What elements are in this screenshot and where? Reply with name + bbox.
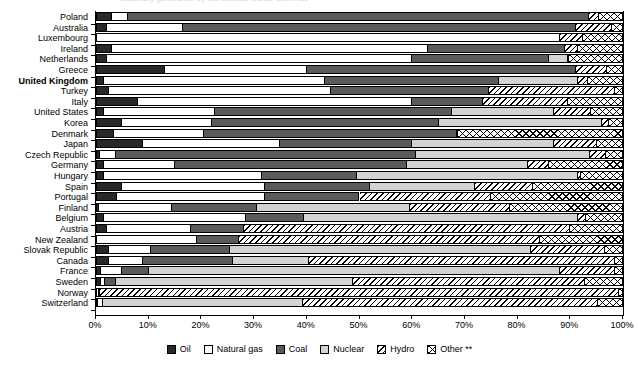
legend-item-nuclear[interactable]: Nuclear (320, 344, 364, 354)
bar-segment-other (619, 288, 623, 297)
bar-segment-coal (246, 213, 304, 222)
bar-segment-coal (331, 86, 489, 95)
legend-item-coal[interactable]: Coal (276, 344, 308, 354)
bar-segment-gas (109, 86, 330, 95)
bar-segment-coal (197, 235, 239, 244)
bar-segment-gas (104, 107, 215, 116)
y-axis-label-united-states: United States (34, 107, 88, 117)
bar-segment-hydro (589, 12, 600, 21)
bar-segment-coal (265, 192, 360, 201)
bar-segment-coal (191, 224, 244, 233)
bar-segment-coal (265, 182, 370, 191)
bar-segment-nuclear (407, 160, 528, 169)
bar-segment-hydro (475, 182, 533, 191)
legend-item-hydro[interactable]: Hydro (377, 344, 414, 354)
bar-segment-other (491, 192, 623, 201)
bar-row (96, 203, 623, 212)
bar-segment-hydro (602, 118, 609, 127)
bar-segment-nuclear (452, 107, 555, 116)
y-axis-tick (91, 130, 95, 131)
bar-segment-other (533, 182, 623, 191)
y-axis-tick (91, 55, 95, 56)
bar-segment-oil (96, 12, 112, 21)
bar-segment-gas (112, 44, 428, 53)
bar-segment-gas (109, 245, 151, 254)
y-axis-label-netherlands: Netherlands (39, 54, 88, 64)
bar-segment-other (581, 171, 623, 180)
y-axis-tick (91, 24, 95, 25)
bar-segment-hydro (554, 139, 596, 148)
plot-area (95, 11, 624, 315)
x-axis-tick (95, 315, 96, 319)
bar-segment-hydro (303, 298, 598, 307)
bar-row (96, 150, 623, 159)
legend-label: Oil (180, 344, 191, 354)
y-axis-label-poland: Poland (60, 12, 88, 22)
bar-row (96, 245, 623, 254)
bar-row (96, 235, 623, 244)
bar-segment-coal (412, 97, 483, 106)
bar-segment-other (598, 298, 623, 307)
bar-segment-nuclear (149, 266, 560, 275)
y-axis-tick (91, 204, 95, 205)
bar-row (96, 139, 623, 148)
bar-row (96, 288, 623, 297)
y-axis-label-portugal: Portugal (54, 192, 88, 202)
bar-segment-nuclear (304, 213, 578, 222)
bar-segment-oil (96, 160, 104, 169)
bar-segment-other (609, 118, 623, 127)
bar-segment-gas (99, 203, 173, 212)
legend-item-other[interactable]: Other ** (427, 344, 472, 354)
y-axis-tick (91, 87, 95, 88)
y-axis-label-austria: Austria (60, 224, 88, 234)
y-axis-label-slovak-republic: Slovak Republic (23, 245, 88, 255)
bars-container (96, 11, 623, 315)
bar-segment-other (570, 224, 623, 233)
bar-segment-coal (428, 44, 565, 53)
bar-segment-coal (325, 76, 499, 85)
x-axis-tick (306, 315, 307, 319)
bar-segment-other (583, 33, 623, 42)
y-axis-tick (91, 193, 95, 194)
x-axis-tick (517, 315, 518, 319)
legend-swatch-hydro-icon (377, 345, 386, 354)
bar-segment-hydro (353, 277, 585, 286)
x-axis-tick (411, 315, 412, 319)
bar-row (96, 12, 623, 21)
clipped-title-strip: Electricity generation by fuel source, O… (0, 0, 639, 9)
bar-segment-oil (96, 171, 104, 180)
bar-row (96, 33, 623, 42)
bar-segment-other (568, 97, 623, 106)
legend-swatch-coal-icon (276, 345, 285, 354)
bar-segment-coal (307, 65, 576, 74)
y-axis-label-hungary: Hungary (54, 171, 88, 181)
legend-item-gas[interactable]: Natural gas (204, 344, 263, 354)
bar-segment-hydro (560, 33, 584, 42)
bar-segment-oil (96, 44, 112, 53)
bar-segment-hydro (578, 76, 587, 85)
bar-segment-gas (143, 139, 280, 148)
bar-segment-other (549, 160, 623, 169)
bar-segment-nuclear (230, 245, 530, 254)
legend-item-oil[interactable]: Oil (167, 344, 191, 354)
bar-segment-other (599, 12, 623, 21)
bar-segment-nuclear (357, 171, 578, 180)
bar-segment-oil (96, 256, 109, 265)
bar-row (96, 213, 623, 222)
bar-segment-nuclear (439, 118, 602, 127)
bar-segment-hydro (489, 86, 615, 95)
legend-label: Coal (289, 344, 308, 354)
chart-legend: OilNatural gasCoalNuclearHydroOther ** (0, 339, 639, 359)
x-axis-line (95, 315, 624, 316)
bar-row (96, 118, 623, 127)
bar-segment-other (585, 277, 623, 286)
bar-segment-hydro (578, 213, 586, 222)
bar-segment-nuclear (116, 277, 353, 286)
y-axis-tick (91, 289, 95, 290)
bar-segment-hydro (565, 44, 578, 53)
bar-segment-other (588, 76, 623, 85)
bar-segment-coal (204, 129, 457, 138)
bar-segment-other (510, 203, 623, 212)
bar-segment-oil (96, 192, 117, 201)
bar-segment-coal (262, 171, 357, 180)
